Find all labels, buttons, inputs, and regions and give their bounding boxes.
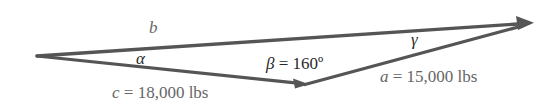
angle-beta-label: β = 160º [265, 54, 323, 73]
angle-alpha-label: α [136, 49, 146, 68]
side-b-vector [37, 24, 522, 56]
vector-triangle-diagram: b α β = 160º γ c = 18,000 lbs a = 15,000… [0, 0, 557, 104]
angle-gamma-label: γ [411, 30, 419, 49]
side-c-label: c = 18,000 lbs [112, 83, 208, 102]
side-b-label: b [149, 18, 158, 37]
side-c-vector [37, 56, 300, 83]
arrowhead-b-icon [516, 16, 534, 30]
side-a-label: a = 15,000 lbs [380, 67, 477, 86]
